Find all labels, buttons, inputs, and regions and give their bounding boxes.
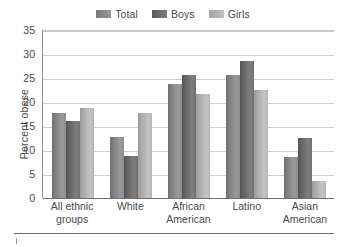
chart-legend: TotalBoysGirls [0,8,346,20]
bar-group [102,31,160,198]
x-axis-label-line: Latino [218,200,276,213]
x-axis-label: AsianAmerican [276,200,334,225]
x-axis-label-line: All ethnic [43,200,101,213]
y-tick-label: 25 [23,72,35,84]
x-axis-label-line: White [101,200,159,213]
y-tick-label: 30 [23,48,35,60]
plot-area [42,30,334,198]
bars-layer [44,31,334,198]
y-tick-label: 20 [23,96,35,108]
bar-total [284,157,298,198]
y-tick-label: 10 [23,144,35,156]
x-axis-label: Latino [218,200,276,225]
bar-group [276,31,334,198]
legend-label: Girls [228,8,250,20]
bar-chart-figure: TotalBoysGirls Percent obese 05101520253… [0,0,346,247]
bar-girls [138,113,152,198]
bar-boys [182,75,196,198]
legend-entry-boys: Boys [152,8,195,20]
x-axis-label-line: African [159,200,217,213]
legend-swatch-girls-icon [209,10,224,18]
bar-total [226,75,240,198]
footer-divider [14,233,334,234]
y-tick-label: 15 [23,120,35,132]
bar-total [52,113,66,198]
x-axis-label: AfricanAmerican [159,200,217,225]
x-axis-label-line: American [276,213,334,226]
y-tick-label: 0 [29,192,35,204]
bar-girls [254,90,268,198]
bar-group [160,31,218,198]
bar-total [168,84,182,198]
x-axis-label-line: groups [43,213,101,226]
bar-total [110,137,124,198]
bar-boys [298,138,312,198]
legend-entry-girls: Girls [209,8,250,20]
bar-boys [124,156,138,198]
legend-label: Total [115,8,138,20]
x-axis-label: All ethnicgroups [43,200,101,225]
bar-group [218,31,276,198]
axis-baseline [43,198,334,199]
footer-tick-mark [16,238,17,244]
bar-girls [312,181,326,198]
bar-boys [66,121,80,198]
bar-group [44,31,102,198]
bar-boys [240,61,254,198]
y-axis-tick-labels: 05101520253035 [0,30,40,198]
bar-girls [80,108,94,198]
legend-swatch-boys-icon [152,10,167,18]
x-axis-label-line: American [159,213,217,226]
legend-label: Boys [171,8,195,20]
y-tick-label: 35 [23,24,35,36]
x-axis-label-line: Asian [276,200,334,213]
legend-swatch-total-icon [96,10,111,18]
x-axis-label: White [101,200,159,225]
bar-girls [196,94,210,198]
y-tick-label: 5 [29,168,35,180]
x-axis-category-labels: All ethnicgroupsWhiteAfricanAmericanLati… [43,200,334,225]
legend-entry-total: Total [96,8,138,20]
